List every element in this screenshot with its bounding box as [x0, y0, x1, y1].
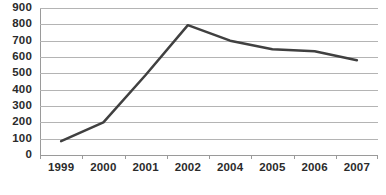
y-axis-tick-label: 200: [12, 117, 32, 129]
x-axis-tick: [82, 155, 83, 159]
x-axis-tick: [167, 155, 168, 159]
x-axis-tick: [209, 155, 210, 159]
y-axis-tick-label: 400: [12, 84, 32, 96]
x-axis-tick: [251, 155, 252, 159]
x-axis-tick: [377, 155, 378, 159]
y-axis-tick-label: 900: [12, 2, 32, 14]
x-axis-tick-label: 2000: [90, 162, 116, 174]
x-axis-ticks: [40, 155, 378, 160]
y-axis-tick-label: 800: [12, 19, 32, 31]
x-axis-tick: [125, 155, 126, 159]
x-axis-tick-label: 1999: [48, 162, 74, 174]
x-axis-tick: [336, 155, 337, 159]
x-axis-tick: [294, 155, 295, 159]
y-axis-tick-label: 600: [12, 51, 32, 63]
x-axis-tick: [40, 155, 41, 159]
x-axis-tick-label: 2002: [175, 162, 201, 174]
series-polyline: [61, 25, 357, 141]
y-axis-tick-label: 0: [25, 149, 32, 161]
x-axis-tick-label: 2006: [301, 162, 327, 174]
x-axis-tick-label: 2001: [132, 162, 158, 174]
y-axis-tick-label: 700: [12, 35, 32, 47]
x-axis-tick-label: 2004: [217, 162, 243, 174]
y-axis-tick-labels: 9008007006005004003002001000: [0, 0, 38, 195]
x-axis-tick-labels: 19992000200120022004200520062007: [40, 162, 378, 182]
y-axis-tick-label: 100: [12, 133, 32, 145]
y-axis-tick-label: 300: [12, 100, 32, 112]
plot-area: [40, 8, 378, 155]
x-axis-tick-label: 2007: [344, 162, 370, 174]
y-axis-tick-label: 500: [12, 68, 32, 80]
x-axis-tick-label: 2005: [259, 162, 285, 174]
line-chart: 9008007006005004003002001000 19992000200…: [0, 0, 386, 195]
data-series-line: [40, 8, 378, 155]
